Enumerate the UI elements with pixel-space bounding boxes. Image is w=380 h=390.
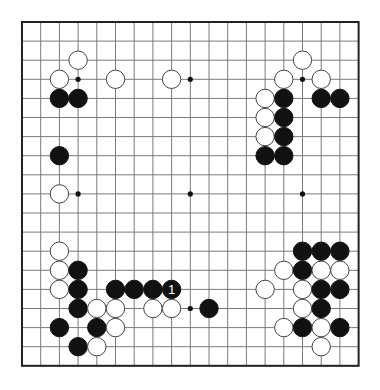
star-point [188,306,193,311]
white-stone [256,280,274,298]
black-stone [293,318,311,336]
white-stone [50,242,68,260]
black-stone [331,318,349,336]
white-stone [275,318,293,336]
white-stone [331,261,349,279]
white-stone [312,70,330,88]
black-stone [293,242,311,260]
go-board-canvas[interactable]: 1 [0,0,380,390]
black-stone [312,242,330,260]
white-stone [293,51,311,69]
white-stone [106,299,124,317]
black-stone [256,147,274,165]
black-stone [312,280,330,298]
star-point [300,77,305,82]
white-stone [106,318,124,336]
stones: 1 [50,51,349,356]
white-stone [50,70,68,88]
black-stone [88,318,106,336]
white-stone [256,89,274,107]
black-stone [144,280,162,298]
black-stone [69,280,87,298]
black-stone [69,299,87,317]
white-stone [312,261,330,279]
black-stone [312,299,330,317]
star-point [76,191,81,196]
black-stone [200,299,218,317]
white-stone [312,338,330,356]
white-stone [312,318,330,336]
black-stone [312,89,330,107]
star-point [188,77,193,82]
black-stone [125,280,143,298]
black-stone [293,261,311,279]
star-point [188,191,193,196]
black-stone [331,280,349,298]
white-stone [50,280,68,298]
white-stone [256,108,274,126]
black-stone [50,318,68,336]
white-stone [275,261,293,279]
black-stone [275,147,293,165]
black-stone [69,261,87,279]
go-board[interactable]: 1 [0,0,380,390]
white-stone [50,261,68,279]
black-stone [275,108,293,126]
white-stone [256,127,274,145]
black-stone: 1 [162,280,180,298]
star-point [76,77,81,82]
black-stone [69,89,87,107]
white-stone [88,338,106,356]
white-stone [162,70,180,88]
white-stone [162,299,180,317]
white-stone [144,299,162,317]
white-stone [69,51,87,69]
black-stone [50,147,68,165]
black-stone [275,89,293,107]
white-stone [293,299,311,317]
white-stone [293,280,311,298]
white-stone [275,70,293,88]
star-point [300,191,305,196]
black-stone [331,242,349,260]
black-stone [331,89,349,107]
move-number-label: 1 [168,282,175,297]
black-stone [275,127,293,145]
black-stone [69,338,87,356]
white-stone [50,185,68,203]
white-stone [106,70,124,88]
white-stone [88,299,106,317]
black-stone [106,280,124,298]
black-stone [50,89,68,107]
